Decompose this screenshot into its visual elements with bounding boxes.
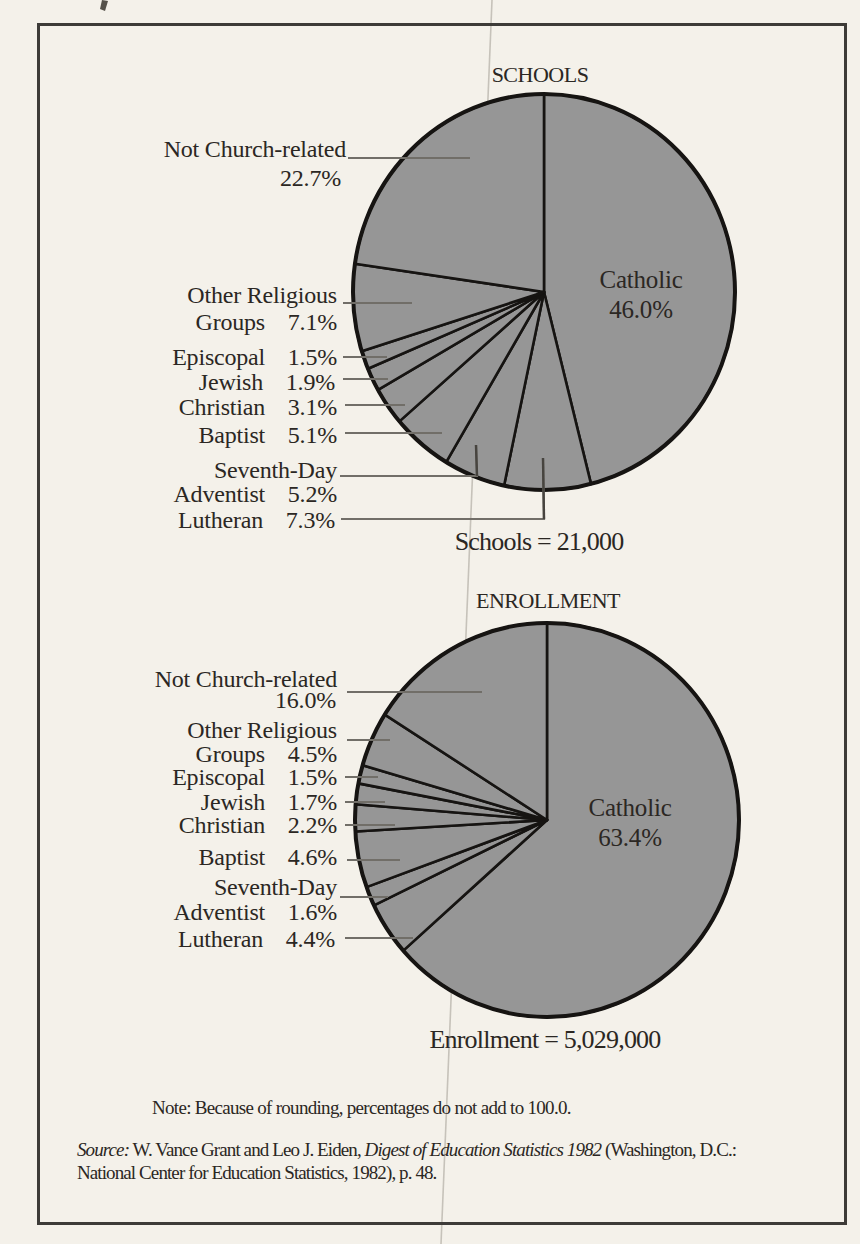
slice-label-other-religious-groups: Groups4.5%	[196, 742, 337, 766]
slice-label-baptist: Baptist5.1%	[198, 423, 337, 447]
slice-label-jewish: Jewish1.7%	[201, 790, 337, 814]
slice-label-not-church-related: Not Church-related	[164, 137, 346, 161]
slice-label-pct: 7.3%	[263, 508, 335, 532]
slice-label-pct: 1.9%	[263, 370, 335, 394]
slice-label-other-religious-groups: Other Religious	[187, 283, 337, 307]
slice-label-pct: 4.6%	[265, 845, 337, 869]
slice-label-pct: 1.5%	[265, 765, 337, 789]
slice-label-pct: 1.5%	[265, 345, 337, 369]
scan-ink-speck	[100, 0, 108, 11]
slice-label-pct: 1.6%	[265, 900, 337, 924]
slice-label-pct: 5.1%	[265, 423, 337, 447]
slice-label-christian: Christian2.2%	[179, 813, 337, 837]
slice-label-christian: Christian3.1%	[179, 395, 337, 419]
source-citation: Source: W. Vance Grant and Leo J. Eiden,…	[77, 1138, 857, 1184]
inside-label-catholic-pct: 46.0%	[609, 297, 673, 322]
slice-label-pct: 4.4%	[263, 927, 335, 951]
slice-label-name: Christian	[179, 812, 265, 838]
rounding-note: Note: Because of rounding, percentages d…	[152, 1097, 571, 1119]
scanned-book-page: SCHOOLS ENROLLMENT Schools = 21,000 Enro…	[0, 0, 860, 1244]
source-publisher-start: (Washington, D.C.:	[601, 1139, 736, 1160]
slice-label-name: Baptist	[198, 844, 265, 870]
slice-label-pct: 3.1%	[265, 395, 337, 419]
slice-label-pct: 7.1%	[265, 310, 337, 334]
slice-label-lutheran: Lutheran4.4%	[178, 927, 335, 951]
slice-label-name: Christian	[179, 394, 265, 420]
slice-label-episcopal: Episcopal1.5%	[172, 765, 337, 789]
inside-label-catholic-pct: 63.4%	[598, 825, 662, 850]
slice-label-pct: 1.7%	[265, 790, 337, 814]
slice-label-pct: 5.2%	[265, 482, 337, 506]
slice-label-name: Baptist	[198, 422, 265, 448]
slice-label-pct: 4.5%	[265, 742, 337, 766]
slice-label-name: Groups	[196, 309, 265, 335]
source-authors: W. Vance Grant and Leo J. Eiden,	[129, 1139, 365, 1160]
pie-title-schools: SCHOOLS	[492, 64, 589, 86]
source-book-title: Digest of Education Statistics 1982	[365, 1139, 602, 1160]
pie-total-enrollment: Enrollment = 5,029,000	[429, 1027, 660, 1053]
inside-label-catholic-name: Catholic	[588, 795, 671, 820]
pie-title-enrollment: ENROLLMENT	[476, 590, 620, 612]
slice-label-episcopal: Episcopal1.5%	[172, 345, 337, 369]
slice-label-not-church-related: 22.7%	[280, 166, 341, 190]
slice-label-name: Adventist	[173, 899, 265, 925]
slice-label-not-church-related: 16.0%	[275, 688, 336, 712]
slice-label-name: Lutheran	[178, 507, 263, 533]
slice-label-seventh-day-adventist: Adventist1.6%	[173, 900, 337, 924]
slice-label-other-religious-groups: Other Religious	[187, 718, 337, 742]
slice-label-lutheran: Lutheran7.3%	[178, 508, 335, 532]
slice-label-name: Episcopal	[172, 344, 265, 370]
slice-label-name: Episcopal	[172, 764, 265, 790]
pie-total-schools: Schools = 21,000	[455, 529, 624, 555]
slice-label-jewish: Jewish1.9%	[199, 370, 335, 394]
slice-label-name: Lutheran	[178, 926, 263, 952]
inside-label-catholic-name: Catholic	[599, 267, 682, 292]
slice-label-seventh-day-adventist: Seventh-Day	[214, 458, 337, 482]
slice-label-seventh-day-adventist: Seventh-Day	[214, 875, 337, 899]
source-label: Source:	[77, 1139, 129, 1160]
slice-label-baptist: Baptist4.6%	[198, 845, 337, 869]
slice-label-name: Adventist	[173, 481, 265, 507]
slice-label-pct: 2.2%	[265, 813, 337, 837]
slice-label-name: Jewish	[199, 369, 263, 395]
slice-label-other-religious-groups: Groups7.1%	[196, 310, 337, 334]
source-line2: National Center for Education Statistics…	[77, 1162, 436, 1183]
slice-label-seventh-day-adventist: Adventist5.2%	[173, 482, 337, 506]
